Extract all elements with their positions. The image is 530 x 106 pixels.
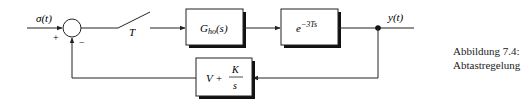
output-label: y(t) xyxy=(387,11,404,24)
block-diagram: σ(t) + − T Gho(s) e−3Ts y(t) V + K xyxy=(0,0,530,106)
plus-sign: + xyxy=(53,32,59,43)
figure-caption: Abbildung 7.4: Abtastregelung xyxy=(453,44,520,72)
hold-block: Gho(s) xyxy=(186,9,246,48)
delay-block: e−3Ts xyxy=(281,9,341,48)
minus-sign: − xyxy=(79,37,85,48)
delay-block-exponent: −3Ts xyxy=(301,20,317,29)
input-label: σ(t) xyxy=(36,12,52,25)
caption-figure-number: Abbildung 7.4: xyxy=(453,44,520,58)
hold-block-subscript: ho xyxy=(208,27,216,36)
summing-junction xyxy=(63,19,81,37)
controller-frac-den: s xyxy=(233,80,237,91)
switch-label: T xyxy=(129,26,136,38)
hold-block-label: G xyxy=(200,22,208,34)
controller-frac-num: K xyxy=(231,64,240,75)
controller-block: V + K s xyxy=(196,58,255,99)
caption-title: Abtastregelung xyxy=(453,58,520,72)
controller-label-left: V + xyxy=(206,72,223,84)
hold-block-suffix: (s) xyxy=(216,22,228,35)
